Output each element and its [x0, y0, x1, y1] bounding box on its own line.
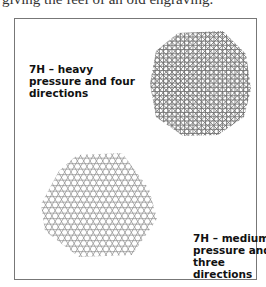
- label-line: three directions: [193, 256, 266, 280]
- caption-text: giving the feel of an old engraving.: [2, 0, 213, 8]
- label-heavy-four: 7H – heavy pressure and four directions: [29, 63, 139, 99]
- label-line: directions: [29, 87, 139, 99]
- label-line: pressure and four: [29, 75, 139, 87]
- label-medium-three: 7H – medium pressure and three direction…: [193, 232, 266, 280]
- figure-box: 7H – heavy pressure and four directions …: [14, 18, 257, 280]
- hatch-sample-three-directions: [37, 149, 162, 261]
- label-line: 7H – medium: [193, 232, 266, 244]
- label-line: pressure and: [193, 244, 266, 256]
- hatch-sample-four-directions: [148, 29, 253, 139]
- label-line: 7H – heavy: [29, 63, 139, 75]
